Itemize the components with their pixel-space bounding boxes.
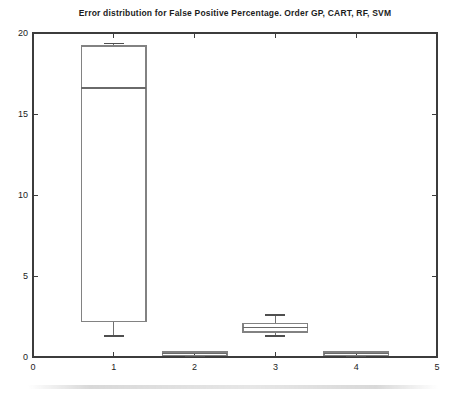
scan-artifact [28, 385, 438, 389]
x-tick-label: 2 [192, 362, 197, 372]
x-tick-label: 4 [354, 362, 359, 372]
boxplot-canvas: 01234505101520 [0, 0, 455, 393]
x-tick-label: 5 [434, 362, 439, 372]
boxplot-figure: Error distribution for False Positive Pe… [0, 0, 455, 393]
y-tick-label: 0 [23, 352, 28, 362]
y-tick-label: 5 [23, 271, 28, 281]
y-tick-label: 20 [18, 28, 28, 38]
plot-border [33, 33, 437, 357]
y-tick-label: 10 [18, 190, 28, 200]
box-gp [81, 46, 146, 321]
x-tick-label: 1 [111, 362, 116, 372]
y-tick-label: 15 [18, 109, 28, 119]
x-tick-label: 0 [30, 362, 35, 372]
x-tick-label: 3 [273, 362, 278, 372]
